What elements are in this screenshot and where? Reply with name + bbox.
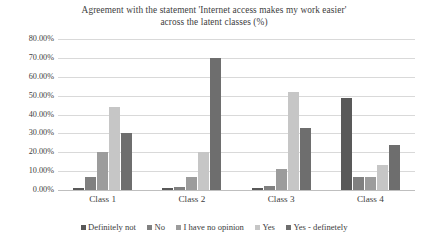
- y-axis: 0.00%10.00%20.00%30.00%40.00%50.00%60.00…: [0, 39, 54, 190]
- bar: [288, 92, 299, 190]
- legend-swatch-icon: [147, 225, 152, 230]
- x-axis-tick-label: Class 3: [237, 192, 326, 208]
- y-axis-tick-label: 10.00%: [0, 167, 54, 175]
- legend-item-label: Yes: [262, 222, 275, 232]
- bar: [341, 98, 352, 190]
- bar: [186, 177, 197, 190]
- legend-item[interactable]: No: [147, 222, 165, 232]
- chart-title: Agreement with the statement 'Internet a…: [0, 4, 428, 28]
- y-axis-tick-label: 60.00%: [0, 73, 54, 81]
- legend-item-label: I have no opinion: [184, 222, 244, 232]
- bars: [326, 39, 415, 190]
- bar: [109, 107, 120, 190]
- chart-legend: Definitely notNoI have no opinionYesYes …: [0, 222, 428, 232]
- bar: [174, 187, 185, 190]
- bars: [58, 39, 147, 190]
- bar-groups: [58, 39, 415, 190]
- legend-item[interactable]: Definitely not: [81, 222, 136, 232]
- bar: [73, 188, 84, 190]
- plot-area: [58, 39, 415, 190]
- chart-container: Agreement with the statement 'Internet a…: [0, 0, 428, 241]
- legend-item[interactable]: Yes: [255, 222, 275, 232]
- y-axis-tick-label: 70.00%: [0, 54, 54, 62]
- x-axis: Class 1Class 2Class 3Class 4: [58, 192, 415, 208]
- legend-item-label: Yes - definetely: [293, 222, 347, 232]
- bar: [389, 145, 400, 190]
- bars: [147, 39, 236, 190]
- legend-swatch-icon: [286, 225, 291, 230]
- y-axis-tick-label: 50.00%: [0, 92, 54, 100]
- bar: [365, 177, 376, 190]
- legend-item[interactable]: I have no opinion: [176, 222, 244, 232]
- bar: [377, 165, 388, 190]
- legend-swatch-icon: [176, 225, 181, 230]
- x-axis-tick-label: Class 4: [326, 192, 415, 208]
- legend-item[interactable]: Yes - definetely: [286, 222, 348, 232]
- legend-item-label: Definitely not: [88, 222, 136, 232]
- legend-item-label: No: [155, 222, 166, 232]
- bar: [264, 186, 275, 190]
- bar: [162, 188, 173, 190]
- y-axis-tick-label: 0.00%: [0, 186, 54, 194]
- bar: [198, 152, 209, 190]
- bar-group: [147, 39, 236, 190]
- bars: [237, 39, 326, 190]
- bar-group: [237, 39, 326, 190]
- legend-swatch-icon: [81, 225, 86, 230]
- bar: [252, 188, 263, 190]
- chart-title-line-2: across the latent classes (%): [0, 16, 428, 28]
- bar: [300, 128, 311, 190]
- gridline: [58, 190, 415, 191]
- y-axis-tick-label: 40.00%: [0, 110, 54, 118]
- bar: [85, 177, 96, 190]
- bar: [353, 177, 364, 190]
- y-axis-tick-label: 80.00%: [0, 35, 54, 43]
- y-axis-tick-label: 20.00%: [0, 148, 54, 156]
- bar: [121, 133, 132, 190]
- bar-group: [326, 39, 415, 190]
- bar-group: [58, 39, 147, 190]
- bar: [210, 58, 221, 190]
- y-axis-tick-label: 30.00%: [0, 129, 54, 137]
- x-axis-tick-label: Class 2: [147, 192, 236, 208]
- legend-swatch-icon: [255, 225, 260, 230]
- x-axis-tick-label: Class 1: [58, 192, 147, 208]
- chart-title-line-1: Agreement with the statement 'Internet a…: [0, 4, 428, 16]
- bar: [276, 169, 287, 190]
- bar: [97, 152, 108, 190]
